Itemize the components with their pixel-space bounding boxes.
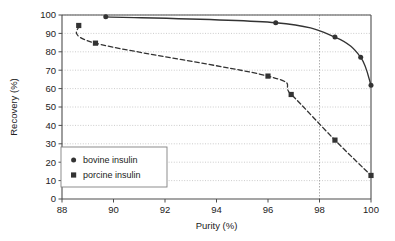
- data-point-marker: [369, 83, 374, 88]
- data-point-marker: [265, 73, 270, 78]
- x-tick-label: 96: [263, 204, 274, 215]
- data-point-marker: [76, 23, 81, 28]
- x-tick-label: 98: [314, 204, 325, 215]
- y-tick-label: 10: [45, 175, 56, 186]
- data-point-marker: [103, 14, 108, 19]
- x-tick-label: 88: [57, 204, 68, 215]
- y-tick-label: 90: [45, 28, 56, 39]
- data-point-marker: [358, 55, 363, 60]
- y-axis-title: Recovery (%): [8, 78, 19, 136]
- series-line-bovine: [106, 17, 371, 85]
- data-point-marker: [368, 173, 373, 178]
- y-tick-label: 50: [45, 101, 56, 112]
- data-point-marker: [332, 35, 337, 40]
- y-tick-label: 70: [45, 65, 56, 76]
- x-tick-label: 90: [108, 204, 119, 215]
- y-tick-label: 40: [45, 120, 56, 131]
- chart-canvas: 0102030405060708090100889092949698100 bo…: [0, 0, 395, 241]
- chart-legend: bovine insulinporcine insulin: [61, 147, 167, 187]
- data-point-marker: [273, 20, 278, 25]
- legend-label-bovine: bovine insulin: [83, 155, 138, 165]
- x-axis-title: Purity (%): [196, 220, 238, 231]
- y-tick-label: 30: [45, 138, 56, 149]
- data-point-marker: [93, 41, 98, 46]
- x-tick-label: 100: [363, 204, 379, 215]
- data-point-marker: [289, 92, 294, 97]
- data-point-marker: [332, 138, 337, 143]
- legend-label-porcine: porcine insulin: [83, 170, 141, 180]
- y-tick-label: 0: [51, 193, 56, 204]
- y-tick-label: 60: [45, 83, 56, 94]
- x-tick-label: 94: [211, 204, 222, 215]
- chart-figure: 0102030405060708090100889092949698100 bo…: [0, 0, 395, 241]
- y-tick-label: 20: [45, 157, 56, 168]
- x-tick-label: 92: [160, 204, 171, 215]
- y-tick-label: 80: [45, 46, 56, 57]
- y-tick-label: 100: [40, 9, 56, 20]
